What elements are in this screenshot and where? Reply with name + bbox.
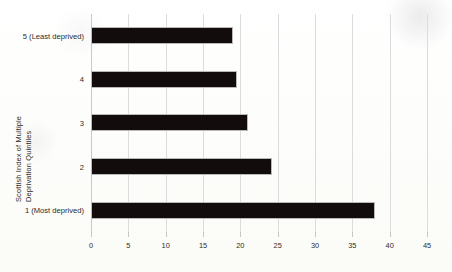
x-tick-label-30: 30	[311, 241, 319, 250]
x-tick-label-15: 15	[199, 241, 207, 250]
bar-chart: Scottish Index of Multiple Deprivation Q…	[0, 0, 452, 272]
gridline-45	[427, 14, 428, 232]
x-tick-mark-5	[128, 232, 129, 237]
bar-row	[91, 145, 427, 189]
y-axis-category-label: 3	[80, 119, 84, 128]
x-tick-mark-20	[240, 232, 241, 237]
x-tick-label-25: 25	[274, 241, 282, 250]
x-tick-mark-15	[203, 232, 204, 237]
x-tick-mark-25	[278, 232, 279, 237]
bar-row	[91, 14, 427, 58]
x-tick-label-0: 0	[89, 241, 93, 250]
bar[interactable]	[91, 114, 248, 131]
x-tick-label-5: 5	[126, 241, 130, 250]
x-tick-mark-40	[390, 232, 391, 237]
x-tick-label-45: 45	[423, 241, 431, 250]
bar-row	[91, 101, 427, 145]
x-tick-mark-10	[166, 232, 167, 237]
y-axis-category-label: 4	[80, 75, 84, 84]
y-axis-category-label: 5 (Least deprived)	[23, 31, 84, 40]
bar[interactable]	[91, 71, 237, 88]
x-tick-mark-35	[352, 232, 353, 237]
bar[interactable]	[91, 158, 272, 175]
x-tick-mark-45	[427, 232, 428, 237]
y-axis-category-labels: 5 (Least deprived)4321 (Most deprived)	[0, 14, 88, 232]
x-tick-label-35: 35	[348, 241, 356, 250]
bar-row	[91, 58, 427, 102]
x-tick-label-40: 40	[386, 241, 394, 250]
y-axis-category-label: 2	[80, 162, 84, 171]
x-tick-mark-0	[91, 232, 92, 237]
y-axis-category-label: 1 (Most deprived)	[25, 206, 84, 215]
x-tick-mark-30	[315, 232, 316, 237]
bar[interactable]	[91, 202, 375, 219]
plot-area	[91, 14, 427, 232]
bar-row	[91, 188, 427, 232]
x-tick-label-10: 10	[162, 241, 170, 250]
x-tick-label-20: 20	[236, 241, 244, 250]
x-axis-ticks: 051015202530354045	[91, 232, 427, 254]
bar[interactable]	[91, 27, 233, 44]
